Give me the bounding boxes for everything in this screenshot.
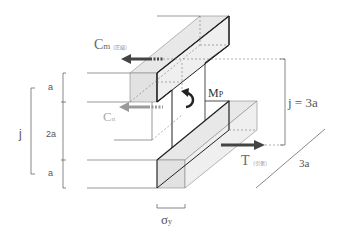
- moment-arrow-icon: [181, 88, 193, 107]
- dim-a-bottom-label: a: [48, 169, 53, 178]
- dim-2a-label: 2a: [46, 130, 56, 139]
- j-equals-3a-label: j = 3a: [288, 96, 318, 109]
- cn-arrow: [119, 102, 163, 112]
- dim-a-top-label: a: [48, 83, 53, 92]
- cn-label: Cn: [103, 110, 115, 123]
- t-label: T（引張）: [241, 154, 270, 168]
- cm-label: Cm（圧縮）: [94, 38, 130, 52]
- mp-label: MP: [208, 87, 223, 99]
- sigma-y-label: σy: [161, 213, 172, 226]
- dim-j-label: j: [19, 128, 22, 140]
- sigma-bracket: [157, 204, 185, 208]
- plastic-moment-diagram: [0, 0, 347, 233]
- depth-3a-label: 3a: [299, 158, 309, 169]
